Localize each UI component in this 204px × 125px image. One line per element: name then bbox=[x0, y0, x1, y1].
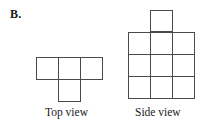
grid-square bbox=[58, 57, 80, 79]
grid-square bbox=[150, 10, 172, 32]
figure-container: B. Top view Side view bbox=[0, 0, 204, 125]
grid-square bbox=[128, 32, 150, 54]
grid-square bbox=[172, 54, 194, 76]
top-view-grid bbox=[35, 56, 104, 103]
grid-square bbox=[172, 32, 194, 54]
side-view-grid bbox=[127, 9, 196, 100]
problem-label: B. bbox=[10, 7, 21, 21]
grid-square bbox=[172, 76, 194, 98]
top-view-figure bbox=[35, 56, 104, 103]
top-view-caption: Top view bbox=[45, 106, 88, 119]
side-view-figure bbox=[127, 9, 196, 100]
side-view-caption: Side view bbox=[135, 106, 181, 119]
grid-square bbox=[128, 54, 150, 76]
grid-square bbox=[80, 57, 102, 79]
grid-square bbox=[150, 32, 172, 54]
grid-square bbox=[150, 54, 172, 76]
grid-square bbox=[36, 57, 58, 79]
grid-square bbox=[58, 79, 80, 101]
grid-square bbox=[128, 76, 150, 98]
grid-square bbox=[150, 76, 172, 98]
